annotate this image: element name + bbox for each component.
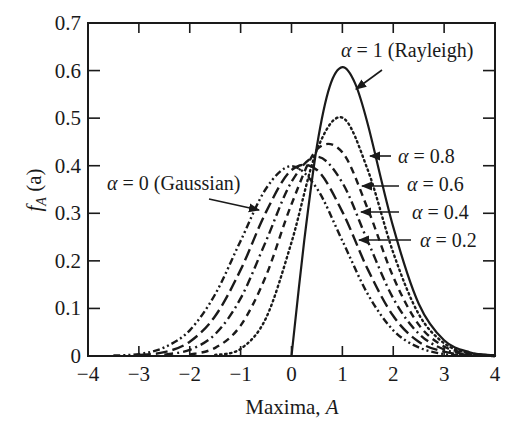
annotation-label-rayleigh: α = 1 (Rayleigh) [341, 39, 473, 62]
y-tick-label: 0.7 [55, 11, 81, 35]
alpha-symbol: α [407, 173, 418, 195]
x-tick-label: 4 [490, 362, 501, 386]
annotation-text: = 1 (Rayleigh) [352, 39, 474, 62]
x-tick-label: 0 [286, 362, 297, 386]
y-axis-title: fA (a) [22, 169, 49, 212]
annotation-text: = 0.6 [418, 173, 464, 195]
x-axis-title: Maxima, A [245, 395, 338, 419]
annotation-label-gaussian: α = 0 (Gaussian) [107, 172, 240, 195]
x-tick-label: −3 [128, 362, 150, 386]
y-tick-label: 0 [71, 344, 82, 368]
x-axis-title-text: Maxima, [245, 395, 325, 419]
y-tick-label: 0.2 [55, 249, 81, 273]
x-tick-label: 3 [439, 362, 450, 386]
x-tick-label: −2 [179, 362, 201, 386]
annotation-text: = 0.2 [431, 229, 477, 251]
annotation-text: = 0.4 [423, 201, 469, 223]
annotation-arrow-gaussian [209, 199, 259, 210]
chart: −4−3−2−10123400.10.20.30.40.50.60.7 α = … [0, 0, 506, 430]
alpha-symbol: α [420, 229, 431, 251]
annotation-label-a06: α = 0.6 [407, 173, 464, 195]
y-axis-title-sub: A [34, 197, 49, 207]
annotation-label-a08: α = 0.8 [398, 145, 455, 167]
alpha-symbol: α [398, 145, 409, 167]
alpha-symbol: α [412, 201, 423, 223]
x-tick-label: 1 [337, 362, 348, 386]
y-tick-label: 0.3 [55, 201, 81, 225]
x-tick-label: −1 [229, 362, 251, 386]
annotations-layer: α = 1 (Rayleigh)α = 0.8α = 0.6α = 0.4α =… [107, 39, 477, 251]
alpha-symbol: α [341, 39, 352, 61]
y-tick-label: 0.1 [55, 296, 81, 320]
alpha-symbol: α [107, 172, 118, 194]
x-axis-title-var: A [324, 395, 339, 419]
annotation-text: = 0 (Gaussian) [118, 172, 241, 195]
annotation-label-a02: α = 0.2 [420, 229, 477, 251]
annotation-label-a04: α = 0.4 [412, 201, 469, 223]
x-tick-label: 2 [388, 362, 399, 386]
annotation-text: = 0.8 [409, 145, 455, 167]
y-axis-title-arg: (a) [22, 169, 46, 198]
y-tick-label: 0.4 [55, 154, 82, 178]
annotation-arrow-rayleigh [356, 70, 382, 89]
y-tick-label: 0.6 [55, 59, 81, 83]
y-tick-label: 0.5 [55, 106, 81, 130]
